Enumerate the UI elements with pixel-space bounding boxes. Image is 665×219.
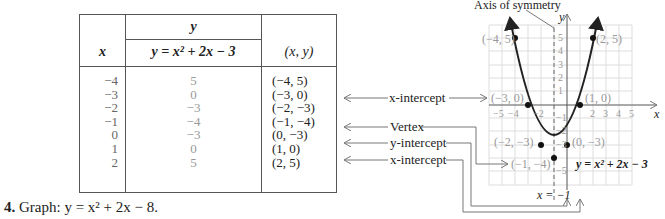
point-label: (−3, 0) bbox=[491, 91, 524, 106]
point-label: (2, 5) bbox=[596, 32, 622, 47]
x-axis-label: x bbox=[654, 107, 659, 122]
problem-number: 4. bbox=[4, 199, 15, 215]
point-label: (−2, −3) bbox=[494, 135, 534, 150]
y-tick: 5 bbox=[558, 32, 563, 43]
vertex-label: Vertex bbox=[390, 119, 424, 135]
point-label: (−1, −4) bbox=[511, 157, 551, 172]
x-tick: 5 bbox=[629, 108, 634, 119]
y-tick: −3 bbox=[556, 139, 567, 150]
point-label: (0, −3) bbox=[572, 135, 605, 150]
axis-of-symmetry-label: Axis of symmetry bbox=[474, 0, 561, 13]
x-tick: −2 bbox=[533, 108, 544, 119]
graph-svg bbox=[0, 0, 665, 219]
y-tick: −1 bbox=[556, 112, 567, 123]
y-tick: 3 bbox=[558, 59, 563, 70]
equation-label: y = x² + 2x − 3 bbox=[576, 157, 648, 172]
point-label: (−4, 5) bbox=[482, 32, 515, 47]
x-tick: −5 bbox=[493, 108, 504, 119]
y-tick: 1 bbox=[558, 85, 563, 96]
y-tick: −2 bbox=[556, 125, 567, 136]
x-intercept-label: x-intercept bbox=[389, 90, 445, 106]
y-intercept-label: y-intercept bbox=[390, 135, 446, 151]
x-tick: 4 bbox=[616, 108, 621, 119]
x-intercept-label-2: x-intercept bbox=[390, 152, 446, 168]
problem-statement: 4. Graph: y = x² + 2x − 8. bbox=[4, 199, 158, 216]
x-tick: −4 bbox=[508, 108, 519, 119]
problem-text: Graph: y = x² + 2x − 8. bbox=[19, 199, 158, 215]
y-tick: −5 bbox=[556, 165, 567, 176]
point-label: (1, 0) bbox=[585, 91, 611, 106]
x-tick: 3 bbox=[603, 108, 608, 119]
y-tick: 4 bbox=[558, 45, 563, 56]
y-axis-label: y bbox=[559, 10, 564, 25]
x-tick: 2 bbox=[590, 108, 595, 119]
y-tick: 2 bbox=[558, 72, 563, 83]
symmetry-equation-label: x = −1 bbox=[537, 188, 571, 203]
